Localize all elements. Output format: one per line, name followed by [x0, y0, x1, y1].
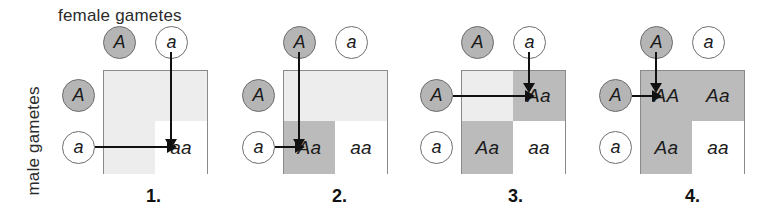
- top-gamete-circle-a[interactable]: a: [692, 26, 725, 59]
- cell-top-right: Aa: [692, 71, 744, 122]
- vertical-arrow: [170, 52, 172, 140]
- horizontal-arrow: [95, 146, 168, 148]
- left-gamete-circle-a[interactable]: a: [599, 131, 632, 164]
- cell-bottom-left: Aa: [462, 121, 514, 174]
- horizontal-arrow: [275, 146, 296, 148]
- left-gamete-circle-A[interactable]: A: [242, 79, 275, 112]
- left-gamete-circle-a[interactable]: a: [420, 131, 453, 164]
- panel-caption: 2.: [332, 186, 347, 207]
- panel-caption: 4.: [685, 186, 700, 207]
- cell-top-left: [104, 71, 156, 122]
- punnett-panel-1: A a A a aa 1.: [0, 0, 190, 220]
- cell-bottom-right: aa: [692, 121, 744, 174]
- left-gamete-circle-a[interactable]: a: [242, 131, 275, 164]
- top-gamete-circle-a[interactable]: a: [335, 26, 368, 59]
- left-gamete-circle-A[interactable]: A: [420, 79, 453, 112]
- punnett-panel-4: A a A a AA Aa Aa aa 4.: [537, 0, 727, 220]
- punnett-panel-3: A a A a Aa Aa aa 3.: [358, 0, 548, 220]
- top-gamete-circle-A[interactable]: A: [103, 26, 136, 59]
- horizontal-arrow: [453, 95, 526, 97]
- top-gamete-circle-A[interactable]: A: [461, 26, 494, 59]
- left-gamete-circle-A[interactable]: A: [599, 79, 632, 112]
- vertical-arrow: [528, 52, 530, 84]
- panel-caption: 3.: [508, 186, 523, 207]
- vertical-arrow: [298, 52, 300, 140]
- cell-bottom-left: Aa: [641, 121, 693, 174]
- panel-caption: 1.: [146, 186, 161, 207]
- horizontal-arrow: [632, 95, 653, 97]
- left-gamete-circle-a[interactable]: a: [62, 131, 95, 164]
- vertical-arrow: [655, 52, 657, 84]
- cell-top-left: [284, 71, 336, 122]
- left-gamete-circle-A[interactable]: A: [62, 79, 95, 112]
- punnett-panel-2: A a A a Aa aa 2.: [180, 0, 370, 220]
